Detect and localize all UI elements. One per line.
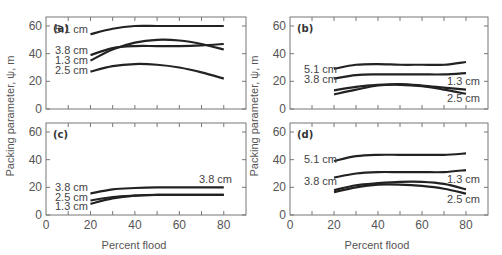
series-label: 5.1 cm: [55, 23, 88, 35]
x-tick-label: 60: [173, 218, 187, 232]
y-tick-label: 20: [273, 180, 287, 194]
x-tick-label: 80: [217, 218, 231, 232]
y-axis-label: Packing parameter, ψ, m: [4, 56, 16, 177]
y-tick-label: 60: [29, 125, 43, 139]
x-tick-label: 20: [327, 218, 341, 232]
y-tick-label: 0: [279, 102, 286, 116]
y-tick-label: 60: [29, 19, 43, 33]
series-line: [90, 64, 223, 79]
panel-label: (c): [53, 129, 68, 140]
series-label: 1.3 cm: [447, 75, 480, 87]
panel-label: (d): [297, 129, 313, 140]
series-label: 1.3 cm: [55, 200, 88, 212]
series-label: 3.8 cm: [199, 173, 232, 185]
series-label: 3.8 cm: [304, 73, 337, 85]
series-line: [334, 153, 466, 161]
y-tick-label: 0: [35, 208, 42, 222]
series-label: 3.8 cm: [304, 175, 337, 187]
x-tick-label: 40: [128, 218, 142, 232]
series-line: [90, 40, 223, 61]
x-tick-label: 80: [459, 218, 473, 232]
y-tick-label: 60: [273, 125, 287, 139]
y-tick-label: 40: [29, 47, 43, 61]
x-tick-label: 20: [84, 218, 98, 232]
chart-panel-c: 0204060020406080Percent flood(c)3.8 cm3.…: [29, 123, 246, 251]
series-line: [90, 187, 223, 193]
x-tick-label: 60: [415, 218, 429, 232]
x-tick-label: 0: [287, 218, 294, 232]
figure: 0204060(a)5.1 cm3.8 cm1.3 cm2.5 cm020406…: [0, 0, 502, 255]
x-axis-label: Percent flood: [102, 239, 167, 251]
x-tick-label: 0: [43, 218, 50, 232]
series-line: [334, 62, 466, 69]
x-axis-label: Percent flood: [345, 239, 410, 251]
y-tick-label: 20: [29, 74, 43, 88]
chart-panel-a: 0204060(a)5.1 cm3.8 cm1.3 cm2.5 cm: [29, 17, 246, 116]
series-label: 2.5 cm: [447, 193, 480, 205]
x-tick-label: 40: [371, 218, 385, 232]
y-tick-label: 60: [273, 19, 287, 33]
y-tick-label: 0: [35, 102, 42, 116]
y-tick-label: 40: [29, 153, 43, 167]
y-tick-label: 40: [273, 153, 287, 167]
series-line: [90, 26, 223, 35]
series-label: 5.1 cm: [304, 153, 337, 165]
y-tick-label: 20: [29, 180, 43, 194]
y-tick-label: 40: [273, 47, 287, 61]
series-label: 2.5 cm: [447, 92, 480, 104]
series-label: 1.3 cm: [447, 173, 480, 185]
y-tick-label: 0: [279, 208, 286, 222]
series-label: 2.5 cm: [55, 64, 88, 76]
panel-label: (b): [297, 23, 313, 34]
y-tick-label: 20: [273, 74, 287, 88]
y-axis-label: Packing parameter, ψ, m: [248, 56, 260, 177]
chart-panel-b: 0204060(b)5.1 cm3.8 cm1.3 cm2.5 cm: [273, 17, 488, 116]
chart-panel-d: 0204060020406080Percent flood(d)5.1 cm3.…: [273, 123, 488, 251]
